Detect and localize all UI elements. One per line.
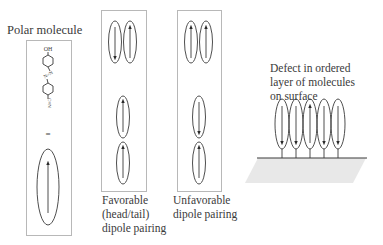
svg-text:C≡N: C≡N — [47, 98, 52, 108]
dipole-up-icon — [117, 142, 130, 184]
surface-plane-icon — [245, 158, 366, 183]
dipole-up-icon — [117, 96, 130, 138]
surface-molecule-down-icon — [275, 99, 289, 158]
svg-text:=: = — [45, 129, 50, 139]
dipole-down-icon — [109, 21, 122, 63]
dipole-up-icon — [37, 149, 59, 225]
dipole-up-icon — [185, 21, 198, 63]
dipole-up-icon — [200, 21, 213, 63]
surface-molecule-down-icon — [317, 99, 331, 158]
dipole-down-icon — [193, 96, 206, 138]
dipole-up-icon — [124, 21, 137, 63]
dipole-up-icon — [193, 142, 206, 184]
surface-molecule-down-icon — [289, 99, 303, 158]
molecule-structure-icon: OH N=N C≡N = — [43, 46, 55, 139]
svg-text:OH: OH — [44, 46, 53, 52]
svg-text:N=N: N=N — [43, 70, 55, 80]
diagram-graphics: OH N=N C≡N = — [0, 0, 383, 245]
surface-molecule-down-icon — [331, 99, 345, 158]
surface-molecule-up-icon — [303, 99, 317, 158]
